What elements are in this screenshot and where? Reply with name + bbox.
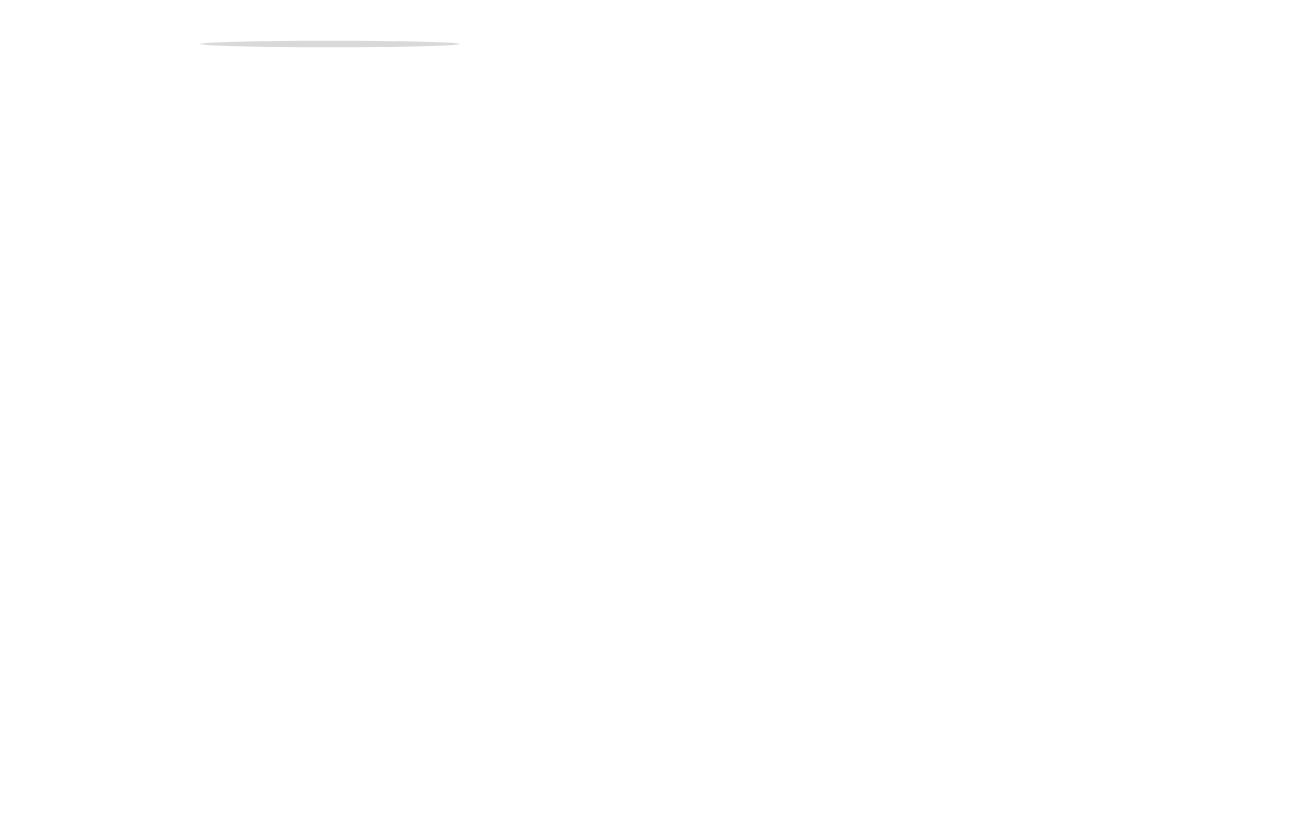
scan-artifact-smudge xyxy=(200,41,460,47)
ir-spectrum-chart xyxy=(0,0,1293,836)
ir-spectrum-page xyxy=(0,0,1293,836)
chart-background xyxy=(0,0,1293,836)
